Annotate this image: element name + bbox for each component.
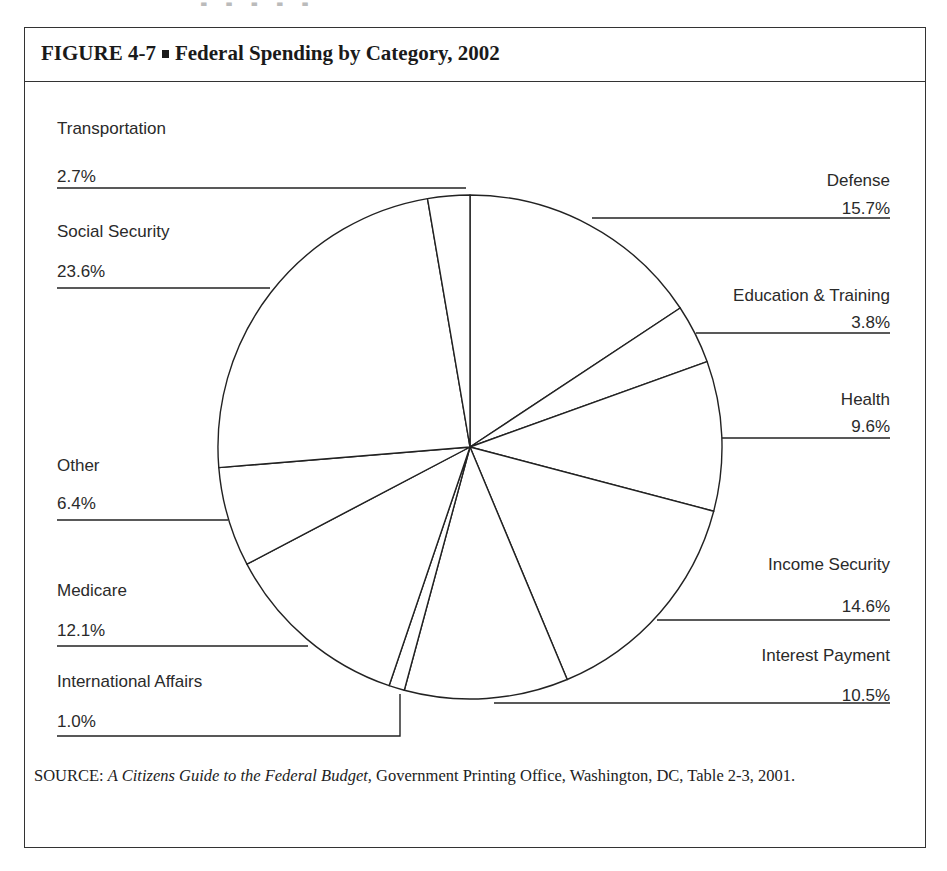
slice-value-international-affairs: 1.0%: [57, 712, 96, 731]
slice-label-health: Health: [841, 390, 890, 409]
slice-value-defense: 15.7%: [842, 199, 890, 218]
slice-label-income-security: Income Security: [768, 555, 890, 574]
pie-slice-social-security: [218, 199, 470, 468]
slice-value-transportation: 2.7%: [57, 167, 96, 186]
source-note: SOURCE: A Citizens Guide to the Federal …: [34, 762, 904, 789]
slice-value-medicare: 12.1%: [57, 621, 105, 640]
source-prefix: SOURCE:: [34, 766, 108, 785]
slice-label-other: Other: [57, 456, 100, 475]
pie-chart: Defense15.7%Education & Training3.8%Heal…: [0, 0, 947, 871]
source-title: A Citizens Guide to the Federal Budget,: [108, 766, 372, 785]
slice-value-social-security: 23.6%: [57, 262, 105, 281]
pie-slices: [218, 195, 722, 699]
slice-label-international-affairs: International Affairs: [57, 672, 202, 691]
leader-line-international-affairs: [57, 694, 400, 736]
slice-label-medicare: Medicare: [57, 581, 127, 600]
source-details: Government Printing Office, Washington, …: [372, 766, 795, 785]
slice-label-defense: Defense: [827, 171, 890, 190]
slice-value-income-security: 14.6%: [842, 597, 890, 616]
slice-label-education-training: Education & Training: [733, 286, 890, 305]
slice-label-social-security: Social Security: [57, 222, 170, 241]
slice-value-other: 6.4%: [57, 494, 96, 513]
slice-value-interest-payment: 10.5%: [842, 686, 890, 705]
slice-label-interest-payment: Interest Payment: [761, 646, 890, 665]
slice-label-transportation: Transportation: [57, 119, 166, 138]
slice-value-health: 9.6%: [851, 417, 890, 436]
slice-value-education-training: 3.8%: [851, 313, 890, 332]
